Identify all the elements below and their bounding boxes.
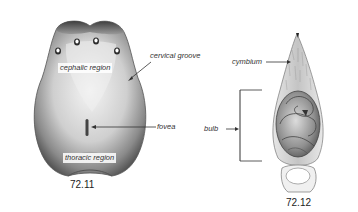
label-cephalic-region: cephalic region xyxy=(58,63,112,73)
label-cervical-groove: cervical groove xyxy=(150,52,200,60)
label-cymbium: cymbium xyxy=(232,58,262,66)
anatomy-diagram: cephalic region cervical groove fovea th… xyxy=(0,0,358,212)
diagram-artwork xyxy=(0,0,358,212)
figure-caption-72-12: 72.12 xyxy=(286,198,311,208)
figure-caption-72-11: 72.11 xyxy=(70,180,94,190)
label-bulb: bulb xyxy=(204,125,218,133)
label-thoracic-region: thoracic region xyxy=(63,153,116,163)
pedipalp-illustration xyxy=(273,33,323,192)
label-fovea: fovea xyxy=(157,123,175,131)
